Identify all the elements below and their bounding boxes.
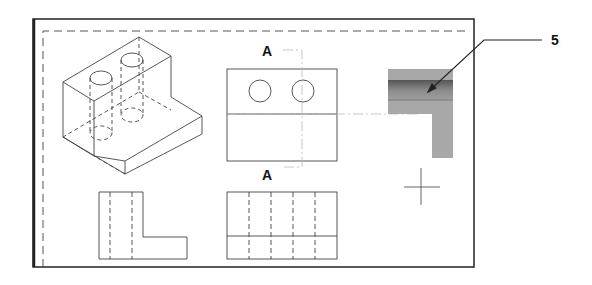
section-label-bottom: A bbox=[262, 167, 272, 183]
top-view bbox=[227, 69, 337, 161]
front-view bbox=[227, 192, 337, 259]
section-label-top: A bbox=[262, 43, 272, 59]
isometric-view bbox=[63, 37, 202, 174]
dashed-border bbox=[43, 31, 470, 267]
side-view bbox=[99, 192, 187, 259]
drawing-canvas: A A 5 bbox=[0, 0, 592, 285]
crosshair-mark bbox=[404, 168, 440, 205]
section-view bbox=[388, 69, 453, 158]
callout-number: 5 bbox=[551, 32, 559, 48]
